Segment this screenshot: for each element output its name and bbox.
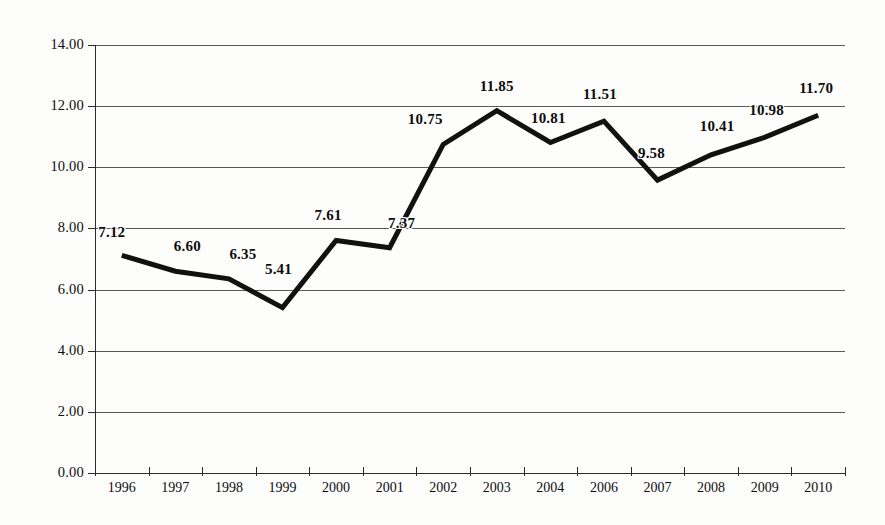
x-tick	[256, 467, 257, 476]
x-axis-tick-label: 1997	[145, 480, 205, 496]
y-axis-tick-label: 2.00	[22, 403, 84, 420]
y-axis-tick-label: 6.00	[22, 281, 84, 298]
x-axis-tick-label: 1999	[253, 480, 313, 496]
x-tick	[738, 467, 739, 476]
y-axis-tick-label: 0.00	[22, 464, 84, 481]
y-axis-tick-label: 8.00	[22, 219, 84, 236]
y-axis-label: 4.00	[8, 342, 84, 360]
x-axis-tick-label: 2002	[413, 480, 473, 496]
data-point-label: 11.85	[480, 78, 514, 95]
gridline-4.00	[95, 351, 845, 352]
gridline-10.00	[95, 167, 845, 168]
x-axis-tick-label: 2003	[467, 480, 527, 496]
x-tick	[684, 467, 685, 476]
x-tick	[524, 467, 525, 476]
x-axis-tick-label: 2009	[735, 480, 795, 496]
x-tick	[577, 467, 578, 476]
y-axis-label: 8.00	[8, 219, 84, 237]
data-point-label: 7.61	[315, 207, 342, 224]
x-tick	[791, 467, 792, 476]
series-line-group	[0, 0, 885, 525]
x-tick	[95, 467, 96, 476]
x-tick	[416, 467, 417, 476]
gridline-2.00	[95, 412, 845, 413]
x-tick	[149, 467, 150, 476]
y-axis-label: 10.00	[8, 158, 84, 176]
x-axis-tick-label: 2000	[306, 480, 366, 496]
y-axis-label: 14.00	[8, 36, 84, 54]
data-point-label: 10.98	[749, 102, 784, 119]
data-point-label: 6.35	[229, 246, 256, 263]
y-axis-label: 0.00	[8, 464, 84, 482]
x-tick	[470, 467, 471, 476]
chart-page: 0.002.004.006.008.0010.0012.0014.00 1996…	[0, 0, 885, 525]
data-series-line	[122, 111, 818, 308]
y-axis-label: 12.00	[8, 97, 84, 115]
y-axis-label: 2.00	[8, 403, 84, 421]
x-axis-tick-label: 2006	[574, 480, 634, 496]
x-axis-tick-label: 1998	[199, 480, 259, 496]
y-axis-tick-label: 12.00	[22, 97, 84, 114]
data-point-label: 6.60	[174, 238, 201, 255]
data-point-label: 11.70	[799, 80, 833, 97]
gridline-8.00	[95, 228, 845, 229]
data-point-label: 7.12	[98, 224, 125, 241]
gridline-12.00	[95, 106, 845, 107]
x-axis-tick-label: 2007	[628, 480, 688, 496]
y-axis-spine	[95, 45, 96, 474]
x-axis-tick-label: 2008	[681, 480, 741, 496]
data-point-label: 5.41	[265, 261, 292, 278]
y-axis-tick-label: 4.00	[22, 342, 84, 359]
y-axis-label: 6.00	[8, 281, 84, 299]
x-tick	[845, 467, 846, 476]
x-axis-tick-label: 1996	[92, 480, 152, 496]
x-axis-tick-label: 2004	[520, 480, 580, 496]
data-point-label: 10.41	[700, 118, 735, 135]
x-tick	[363, 467, 364, 476]
x-tick	[309, 467, 310, 476]
y-axis-tick-label: 14.00	[22, 36, 84, 53]
data-point-label: 10.75	[408, 111, 443, 128]
x-tick	[202, 467, 203, 476]
data-point-label: 7.37	[388, 215, 415, 232]
data-point-label: 10.81	[531, 110, 566, 127]
y-axis-tick-label: 10.00	[22, 158, 84, 175]
data-point-label: 9.58	[638, 145, 665, 162]
data-point-label: 11.51	[583, 86, 617, 103]
line-chart: 0.002.004.006.008.0010.0012.0014.00 1996…	[0, 0, 885, 525]
gridline-6.00	[95, 290, 845, 291]
x-axis-tick-label: 2010	[788, 480, 848, 496]
gridline-14.00	[95, 45, 845, 46]
x-axis-tick-label: 2001	[360, 480, 420, 496]
x-tick	[631, 467, 632, 476]
